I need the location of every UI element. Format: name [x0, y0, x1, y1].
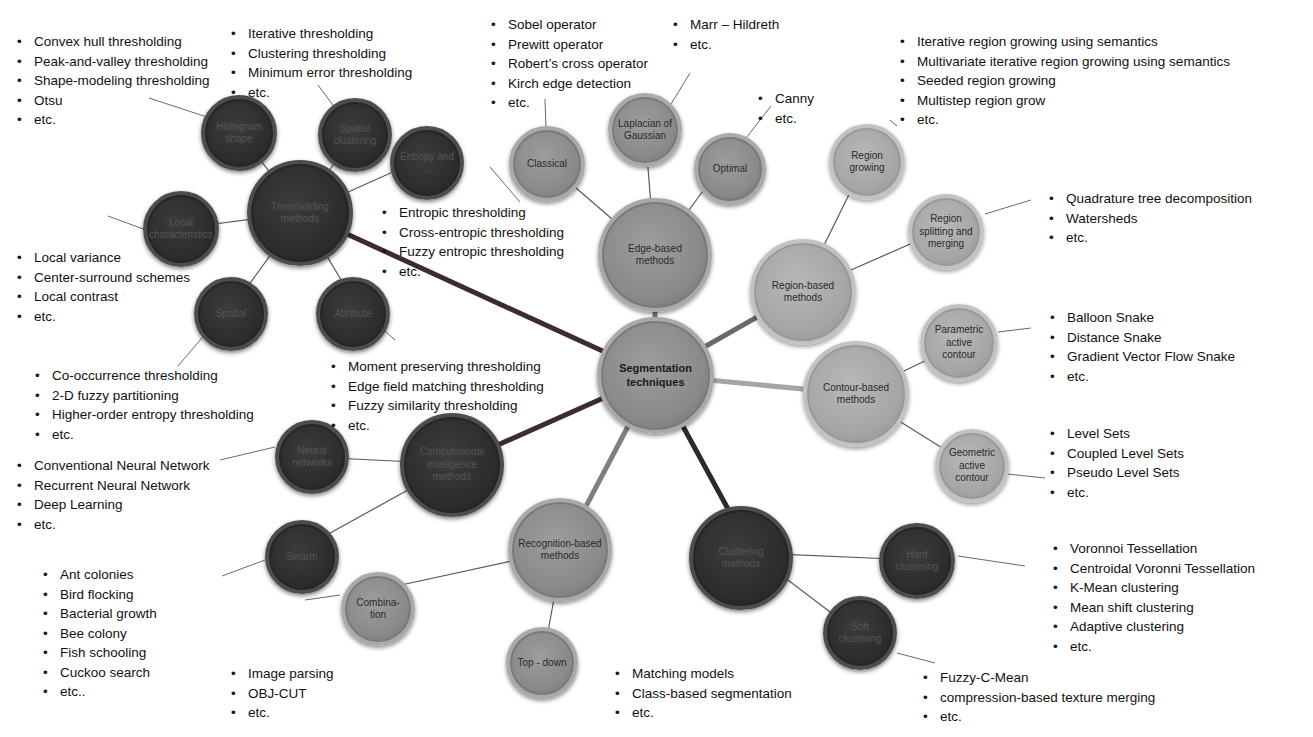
node-label: Region splitting and merging — [918, 213, 974, 251]
list-item: etc. — [228, 83, 412, 103]
list-optimal: Canny etc. — [755, 89, 814, 128]
node-label: Neural networks — [285, 445, 339, 470]
list-item: etc. — [612, 703, 792, 723]
list-region-splitting-merging: Quadrature tree decomposition Watersheds… — [1046, 189, 1252, 248]
list-item: Recurrent Neural Network — [14, 476, 210, 496]
list-item: Watersheds — [1046, 209, 1252, 229]
list-item: Entropic thresholding — [379, 203, 564, 223]
node-label: Attribute — [334, 308, 371, 321]
node-top-down: Top - down — [506, 627, 578, 699]
list-item: Multistep region grow — [897, 91, 1230, 111]
list-item: compression-based texture merging — [920, 688, 1155, 708]
list-item: Local contrast — [14, 287, 190, 307]
list-item: Kirch edge detection — [488, 74, 648, 94]
list-item: etc. — [228, 703, 334, 723]
node-soft-clustering: Soft clustering — [823, 596, 897, 670]
list-laplacian-of-gaussian: Marr – Hildreth etc. — [670, 15, 779, 54]
list-item: etc. — [1046, 228, 1252, 248]
list-item: Matching models — [612, 664, 792, 684]
list-item: Ant colonies — [40, 565, 157, 585]
list-item: Co-occurrence thresholding — [32, 366, 254, 386]
node-label: Entropy and ... — [400, 151, 454, 176]
list-entropy: Entropic thresholding Cross-entropic thr… — [379, 203, 564, 281]
list-top-down: Matching models Class-based segmentation… — [612, 664, 792, 723]
node-swarm: Swarm — [265, 520, 339, 594]
list-item: Sobel operator — [488, 15, 648, 35]
list-item: Marr – Hildreth — [670, 15, 779, 35]
node-classical: Classical — [509, 126, 585, 202]
list-attribute: Moment preserving thresholding Edge fiel… — [328, 357, 544, 435]
list-item: K-Mean clustering — [1050, 578, 1255, 598]
list-item: Adaptive clustering — [1050, 617, 1255, 637]
list-neural-networks: Conventional Neural Network Recurrent Ne… — [14, 456, 210, 534]
list-item: Robert’s cross operator — [488, 54, 648, 74]
node-label: Region-based methods — [760, 280, 846, 305]
node-label: Local characteristics — [149, 217, 213, 242]
node-spatial-clustering: Spatial clustering — [318, 98, 392, 172]
node-attribute: Attribute — [316, 277, 390, 351]
node-label: Laplacian of Gaussian — [618, 118, 672, 143]
list-item: etc. — [488, 93, 648, 113]
node-label: Spatial — [216, 308, 247, 321]
node-label: Geometric active contour — [945, 447, 999, 485]
list-item: Fuzzy entropic thresholding — [379, 242, 564, 262]
node-region-based-methods: Region-based methods — [750, 239, 856, 345]
list-item: Iterative thresholding — [228, 24, 412, 44]
node-thresholding-methods: Thresholding methods — [247, 160, 353, 266]
list-item: Coupled Level Sets — [1047, 444, 1184, 464]
list-item: etc. — [328, 416, 544, 436]
node-label: Segmentation techniques — [607, 362, 704, 390]
list-parametric-active-contour: Balloon Snake Distance Snake Gradient Ve… — [1047, 308, 1235, 386]
list-item: Conventional Neural Network — [14, 456, 210, 476]
list-item: Edge field matching thresholding — [328, 377, 544, 397]
list-geometric-active-contour: Level Sets Coupled Level Sets Pseudo Lev… — [1047, 424, 1184, 502]
list-item: Quadrature tree decomposition — [1046, 189, 1252, 209]
list-item: Centroidal Voronni Tessellation — [1050, 559, 1255, 579]
list-item: Moment preserving thresholding — [328, 357, 544, 377]
list-item: etc. — [1047, 483, 1184, 503]
node-entropy: Entropy and ... — [390, 126, 464, 200]
list-item: Distance Snake — [1047, 328, 1235, 348]
node-label: Spatial clustering — [328, 123, 382, 148]
list-item: Center-surround schemes — [14, 268, 190, 288]
list-spatial-clustering: Iterative thresholding Clustering thresh… — [228, 24, 412, 102]
list-item: Clustering thresholding — [228, 44, 412, 64]
node-label: Optimal — [713, 163, 747, 176]
list-item: Multivariate iterative region growing us… — [897, 52, 1230, 72]
node-clustering-methods: Clustering methods — [689, 506, 793, 610]
node-label: Swarm — [286, 551, 317, 564]
list-item: OBJ-CUT — [228, 684, 334, 704]
node-label: Edge-based methods — [608, 243, 702, 268]
list-item: Deep Learning — [14, 495, 210, 515]
list-item: etc.. — [40, 682, 157, 702]
node-label: Hard clustering — [889, 549, 945, 574]
node-label: Computational intelligence methods — [410, 446, 494, 484]
list-soft-clustering: Fuzzy-C-Mean compression-based texture m… — [920, 668, 1155, 727]
list-local-characteristics: Local variance Center-surround schemes L… — [14, 248, 190, 326]
node-region-growing: Region growing — [829, 124, 905, 200]
list-item: etc. — [670, 35, 779, 55]
list-item: Bacterial growth — [40, 604, 157, 624]
node-label: Classical — [527, 158, 567, 171]
list-item: etc. — [14, 515, 210, 535]
list-item: etc. — [32, 425, 254, 445]
list-item: etc. — [755, 109, 814, 129]
node-geometric-active-contour: Geometric active contour — [935, 429, 1009, 503]
node-parametric-active-contour: Parametric active contour — [920, 304, 998, 382]
node-region-splitting-merging: Region splitting and merging — [908, 194, 984, 270]
list-item: etc. — [1047, 367, 1235, 387]
node-segmentation-techniques: Segmentation techniques — [597, 317, 714, 434]
node-label: Contour-based methods — [813, 382, 899, 407]
list-classical: Sobel operator Prewitt operator Robert’s… — [488, 15, 648, 113]
node-label: Clustering methods — [699, 546, 783, 571]
node-recognition-based-methods: Recognition-based methods — [508, 498, 612, 602]
list-swarm: Ant colonies Bird flocking Bacterial gro… — [40, 565, 157, 702]
list-item: Mean shift clustering — [1050, 598, 1255, 618]
list-item: Local variance — [14, 248, 190, 268]
list-item: 2-D fuzzy partitioning — [32, 386, 254, 406]
list-item: Voronnoi Tessellation — [1050, 539, 1255, 559]
list-item: Seeded region growing — [897, 71, 1230, 91]
list-item: etc. — [1050, 637, 1255, 657]
list-spatial: Co-occurrence thresholding 2-D fuzzy par… — [32, 366, 254, 444]
list-item: Minimum error thresholding — [228, 63, 412, 83]
